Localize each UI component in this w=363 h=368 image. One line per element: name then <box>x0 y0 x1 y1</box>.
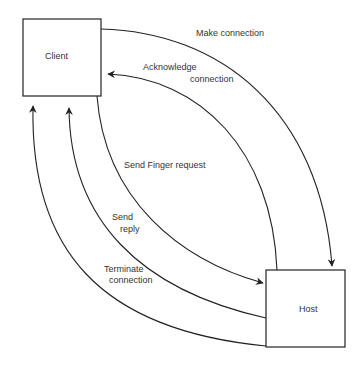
send-reply-label-line2: reply <box>120 224 140 235</box>
host-label: Host <box>299 304 318 314</box>
send-reply-label-line1: Send <box>112 212 133 223</box>
make-connection-label: Make connection <box>196 28 264 39</box>
send-finger-request-arrow <box>97 96 263 283</box>
acknowledge-connection-label-line2: connection <box>190 74 234 85</box>
terminate-connection-label-line1: Terminate <box>104 264 144 275</box>
acknowledge-connection-arrow <box>108 74 277 270</box>
terminate-connection-arrow <box>33 106 266 346</box>
terminate-connection-label-line2: connection <box>109 275 153 286</box>
acknowledge-connection-label-line1: Acknowledge <box>143 62 197 73</box>
client-label: Client <box>45 51 68 61</box>
send-finger-request-label: Send Finger request <box>124 160 206 171</box>
